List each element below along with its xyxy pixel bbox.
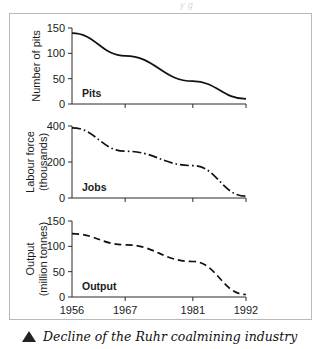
x-tick-label: 1992 <box>234 304 258 316</box>
y-tick-label: 0 <box>59 98 65 110</box>
panel-pits: 050100150Number of pitsPits <box>30 22 246 110</box>
series-label-output: Output <box>82 280 117 292</box>
series-label-jobs: Jobs <box>82 181 107 193</box>
figure-root: y g 050100150Number of pitsPits0200400La… <box>0 0 322 349</box>
chart-frame: 050100150Number of pitsPits0200400Labour… <box>9 13 312 320</box>
y-tick-label: 200 <box>47 156 65 168</box>
x-tick-label: 1956 <box>60 304 84 316</box>
y-axis-title-line2: (thousands) <box>37 133 49 191</box>
x-tick-label: 1967 <box>113 304 137 316</box>
y-tick-label: 100 <box>47 47 65 59</box>
y-tick-label: 150 <box>47 215 65 227</box>
multi-panel-line-chart: 050100150Number of pitsPits0200400Labour… <box>10 14 311 319</box>
panel-output: 050100150Output(million tonnes)Output <box>24 215 246 303</box>
series-label-pits: Pits <box>82 87 101 99</box>
triangle-up-icon <box>22 331 36 342</box>
y-axis-title-line2: (million tonnes) <box>37 222 49 297</box>
figure-caption: Decline of the Ruhr coalmining industry <box>9 326 312 346</box>
y-axis-title-line1: Output <box>24 242 36 275</box>
y-tick-label: 100 <box>47 240 65 252</box>
top-bleed-text: y g <box>180 0 312 10</box>
y-tick-label: 50 <box>53 266 65 278</box>
panel-jobs: 0200400Labour force(thousands)Jobs <box>24 120 246 204</box>
y-tick-label: 0 <box>59 192 65 204</box>
caption-text: Decline of the Ruhr coalmining industry <box>43 329 297 344</box>
y-axis-title-line1: Labour force <box>24 131 36 193</box>
y-tick-label: 50 <box>53 73 65 85</box>
y-tick-label: 400 <box>47 120 65 132</box>
x-tick-label: 1981 <box>181 304 205 316</box>
y-tick-label: 0 <box>59 291 65 303</box>
y-axis-title: Number of pits <box>30 30 42 102</box>
y-tick-label: 150 <box>47 22 65 34</box>
